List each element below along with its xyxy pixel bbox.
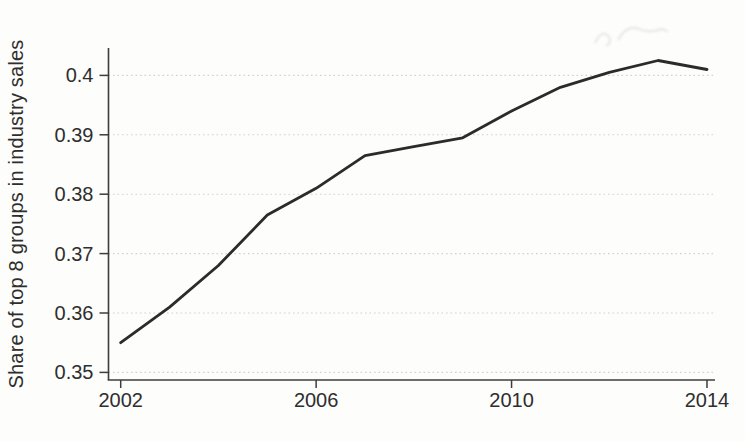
y-axis-title: Share of top 8 groups in industry sales [5,39,27,388]
axes-group [100,48,716,388]
series-line-top8-share [121,61,707,343]
chart-figure: 0.350.360.370.380.390.42002200620102014 … [0,0,745,441]
x-tick-label-2014: 2014 [685,389,730,411]
y-tick-label-0.35: 0.35 [55,361,94,383]
y-tick-label-0.39: 0.39 [55,124,94,146]
x-tick-label-2006: 2006 [294,389,339,411]
tick-labels-group: 0.350.360.370.380.390.42002200620102014 [55,64,730,411]
x-tick-label-2010: 2010 [489,389,534,411]
x-tick-label-2002: 2002 [98,389,143,411]
series-group [121,61,707,343]
scan-smudge-artifact [595,28,668,46]
y-tick-label-0.37: 0.37 [55,243,94,265]
gridlines-group [109,75,715,372]
line-chart-canvas: 0.350.360.370.380.390.42002200620102014 … [0,0,745,441]
y-tick-label-0.4: 0.4 [66,64,94,86]
y-tick-label-0.38: 0.38 [55,183,94,205]
y-tick-label-0.36: 0.36 [55,302,94,324]
